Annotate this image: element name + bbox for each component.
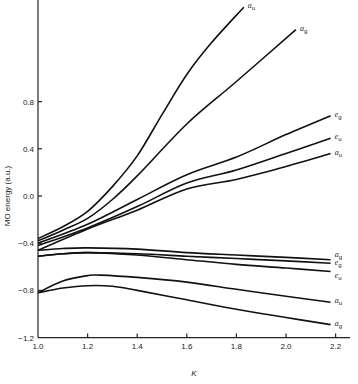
curve-eg — [38, 116, 331, 243]
curve-ag — [38, 286, 331, 325]
y-tick-label: 0.8 — [23, 98, 35, 107]
curve-eu — [38, 138, 331, 245]
x-tick-label: 1.0 — [32, 342, 44, 351]
mo-energy-chart: 1.01.21.41.61.82.02.2−1.2−0.8−0.40.00.40… — [0, 0, 358, 384]
y-tick-label: 0.0 — [23, 192, 35, 201]
y-tick-label: −1.2 — [18, 334, 34, 343]
series-label-eu: eu — [335, 132, 342, 142]
curves — [38, 7, 331, 324]
series-label-au: au — [248, 1, 255, 11]
x-tick-label: 1.8 — [231, 342, 243, 351]
y-axis-title: MO energy (a.u.) — [3, 165, 12, 226]
y-tick-label: 0.4 — [23, 145, 35, 154]
x-tick-label: 1.2 — [82, 342, 94, 351]
series-label-ag: ag — [335, 319, 342, 329]
x-tick-label: 2.2 — [330, 342, 342, 351]
y-tick-label: −0.8 — [18, 286, 34, 295]
series-label-au: au — [335, 296, 342, 306]
curve-ag — [38, 248, 331, 260]
x-tick-label: 1.4 — [132, 342, 144, 351]
series-label-au: au — [335, 148, 342, 158]
x-tick-label: 1.6 — [181, 342, 193, 351]
curve-au — [38, 275, 331, 302]
curve-ag — [38, 30, 296, 241]
x-axis-title: K — [191, 369, 197, 378]
series-label-eg: eg — [335, 258, 342, 268]
curve-au — [38, 7, 244, 238]
series-label-eg: eg — [335, 110, 342, 120]
series-label-eu: eu — [335, 271, 342, 281]
curve-au — [38, 154, 331, 251]
x-tick-label: 2.0 — [280, 342, 292, 351]
series-labels: auagegeuauagegeuauag — [248, 1, 342, 328]
series-label-ag: ag — [300, 24, 307, 34]
y-tick-label: −0.4 — [18, 239, 34, 248]
